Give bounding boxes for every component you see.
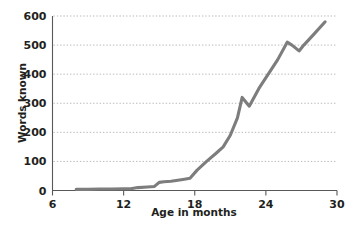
line-chart: 0100200300400500600 612182430 Age in mon… <box>0 0 353 234</box>
x-tick-label: 12 <box>116 198 131 211</box>
x-tick-label: 6 <box>49 198 57 211</box>
y-tick-label: 0 <box>39 185 47 198</box>
y-axis-title: Words known <box>16 63 28 143</box>
data-series-line <box>76 22 325 190</box>
y-tick-label: 600 <box>24 10 47 23</box>
x-tick-label: 30 <box>329 198 345 211</box>
x-tick-label: 24 <box>258 198 274 211</box>
gridlines <box>54 16 338 161</box>
x-axis-tick-marks <box>53 191 338 196</box>
y-tick-label: 500 <box>24 39 47 52</box>
chart-container: 0100200300400500600 612182430 Age in mon… <box>0 0 353 234</box>
y-tick-label: 100 <box>24 155 47 168</box>
x-axis-title: Age in months <box>151 206 237 218</box>
